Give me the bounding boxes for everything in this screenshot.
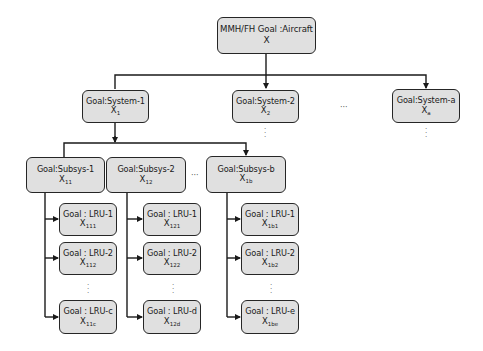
node-variable: X11: [59, 175, 72, 185]
node-label: Goal : LRU-e: [245, 307, 295, 316]
node-label: Goal : LRU-2: [245, 249, 295, 258]
node-variable: X1be: [262, 317, 278, 327]
node-lru-122: Goal : LRU-2 X122: [143, 242, 201, 275]
node-variable: X1: [111, 106, 120, 116]
node-label: Goal:Subsys-1: [37, 165, 94, 174]
node-variable: X111: [80, 219, 96, 229]
lru-col2-continuation-dots: ···: [170, 283, 176, 295]
node-lru-11c: Goal : LRU-c X11c: [59, 300, 117, 334]
node-variable: X: [263, 35, 269, 46]
node-variable: X12d: [164, 317, 180, 327]
node-lru-1b2: Goal : LRU-2 X1b2: [241, 242, 299, 275]
node-lru-12d: Goal : LRU-d X12d: [143, 300, 201, 334]
node-label: Goal : LRU-2: [63, 249, 113, 258]
node-subsys-1: Goal:Subsys-1 X11: [26, 157, 105, 193]
node-system-1: Goal:System-1 X1: [82, 90, 149, 123]
node-label: Goal : LRU-c: [63, 307, 112, 316]
node-label: MMH/FH Goal :Aircraft: [220, 25, 313, 35]
node-root-aircraft: MMH/FH Goal :Aircraft X: [217, 17, 316, 54]
system-2-continuation-dots: ···: [262, 127, 268, 139]
node-variable: X1b2: [262, 258, 278, 268]
node-lru-111: Goal : LRU-1 X111: [59, 203, 117, 236]
system-a-continuation-dots: ···: [423, 127, 429, 139]
node-label: Goal : LRU-d: [147, 307, 197, 316]
node-variable: Xa: [421, 106, 430, 116]
node-variable: X2: [261, 106, 270, 116]
node-label: Goal : LRU-1: [245, 210, 295, 219]
node-lru-1be: Goal : LRU-e X1be: [241, 300, 299, 334]
node-label: Goal:Subsys-b: [217, 165, 274, 174]
lru-col3-continuation-dots: ···: [268, 283, 274, 295]
node-label: Goal : LRU-1: [147, 210, 197, 219]
lru-col1-continuation-dots: ···: [85, 283, 91, 295]
node-subsys-2: Goal:Subsys-2 X12: [106, 157, 186, 193]
node-variable: X1b: [240, 174, 253, 184]
subsystems-ellipsis: ···: [191, 172, 199, 180]
node-variable: X121: [164, 219, 180, 229]
goal-hierarchy-diagram: MMH/FH Goal :Aircraft X Goal:System-1 X1…: [0, 0, 483, 351]
systems-ellipsis: ···: [340, 104, 348, 112]
node-subsys-b: Goal:Subsys-b X1b: [206, 156, 286, 193]
node-lru-121: Goal : LRU-1 X121: [143, 203, 201, 236]
node-variable: X1b1: [262, 219, 278, 229]
node-lru-112: Goal : LRU-2 X112: [59, 242, 117, 275]
node-system-2: Goal:System-2 X2: [232, 90, 299, 123]
node-label: Goal:Subsys-2: [117, 165, 174, 174]
node-variable: X122: [164, 258, 180, 268]
node-system-a: Goal:System-a Xa: [392, 89, 460, 123]
node-lru-1b1: Goal : LRU-1 X1b1: [241, 203, 299, 236]
node-variable: X11c: [80, 317, 96, 327]
node-variable: X12: [140, 175, 153, 185]
node-label: Goal : LRU-2: [147, 249, 197, 258]
node-label: Goal : LRU-1: [63, 210, 113, 219]
node-variable: X112: [80, 258, 96, 268]
